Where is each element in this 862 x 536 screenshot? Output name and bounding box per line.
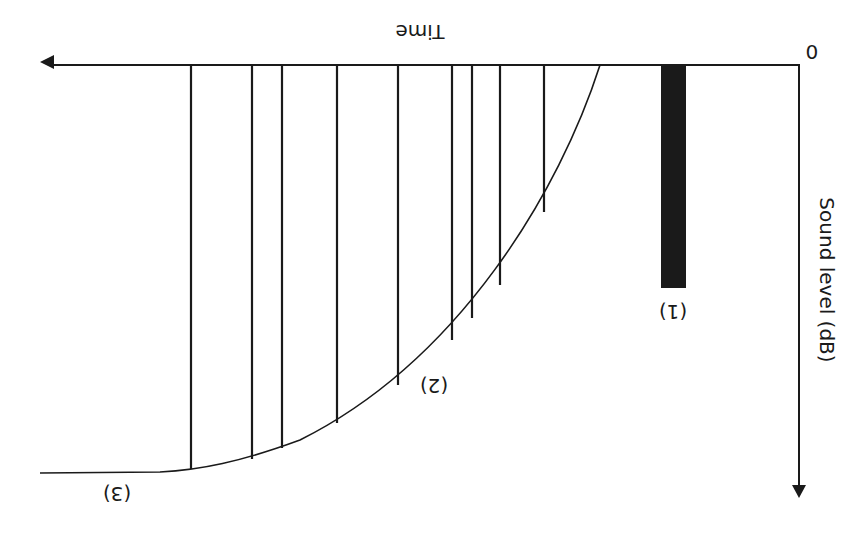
sound-level-axis-arrow-icon <box>792 485 806 498</box>
annotation-1: (1) <box>659 300 687 324</box>
sound-level-axis-label: Sound level (dB) <box>815 197 839 362</box>
origin-label: 0 <box>806 40 819 64</box>
time-axis-label: Time <box>396 20 446 44</box>
envelope-curve <box>40 65 600 473</box>
annotation-2: (2) <box>420 374 448 398</box>
sound-level-diagram: Time 0 Sound level (dB) (1) (2) (3) <box>0 0 862 536</box>
sound-level-axis <box>792 65 806 498</box>
impulse-bar <box>661 65 686 288</box>
envelope-vertical-lines <box>191 65 544 469</box>
annotation-3: (3) <box>103 482 131 506</box>
time-axis-arrow-icon <box>40 55 54 69</box>
